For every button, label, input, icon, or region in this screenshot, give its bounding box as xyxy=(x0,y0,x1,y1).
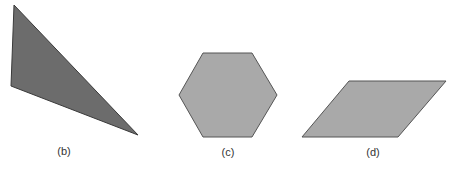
label-c: (c) xyxy=(222,146,235,158)
parallelogram-shape-d xyxy=(302,81,446,137)
label-d: (d) xyxy=(366,146,379,158)
label-b: (b) xyxy=(57,145,70,157)
hexagon-shape-c xyxy=(179,53,277,137)
triangle-shape-b xyxy=(11,5,138,135)
